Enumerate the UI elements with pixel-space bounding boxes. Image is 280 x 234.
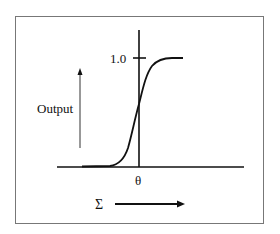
y-axis-label: Output bbox=[37, 102, 73, 115]
x-axis-label: Σ bbox=[95, 198, 103, 212]
sigmoid-curve bbox=[82, 58, 183, 167]
y-tick-label: 1.0 bbox=[110, 52, 126, 65]
output-arrow-head-icon bbox=[78, 68, 83, 75]
threshold-label: θ bbox=[135, 174, 141, 187]
sigmoid-diagram bbox=[0, 0, 280, 234]
sum-arrow-head-icon bbox=[177, 201, 185, 208]
